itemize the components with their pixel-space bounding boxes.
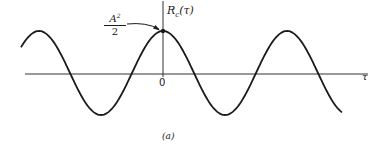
y-label-argument: (τ) [179, 4, 194, 17]
numerator-base: A [109, 13, 116, 24]
arrowhead-icon [153, 25, 160, 31]
y-axis-label: Rc(τ) [167, 4, 194, 19]
annotation-numerator: A2 [104, 10, 126, 26]
annotation-denominator: 2 [104, 26, 126, 37]
numerator-exponent: 2 [117, 12, 121, 19]
cosine-curve [21, 31, 342, 115]
origin-label: 0 [159, 77, 165, 88]
peak-value-annotation: A2 2 [104, 10, 126, 37]
figure-caption: (a) [162, 131, 174, 141]
x-axis-label: τ [362, 71, 368, 82]
peak-dot [161, 29, 165, 33]
autocorrelation-plot [0, 0, 385, 154]
